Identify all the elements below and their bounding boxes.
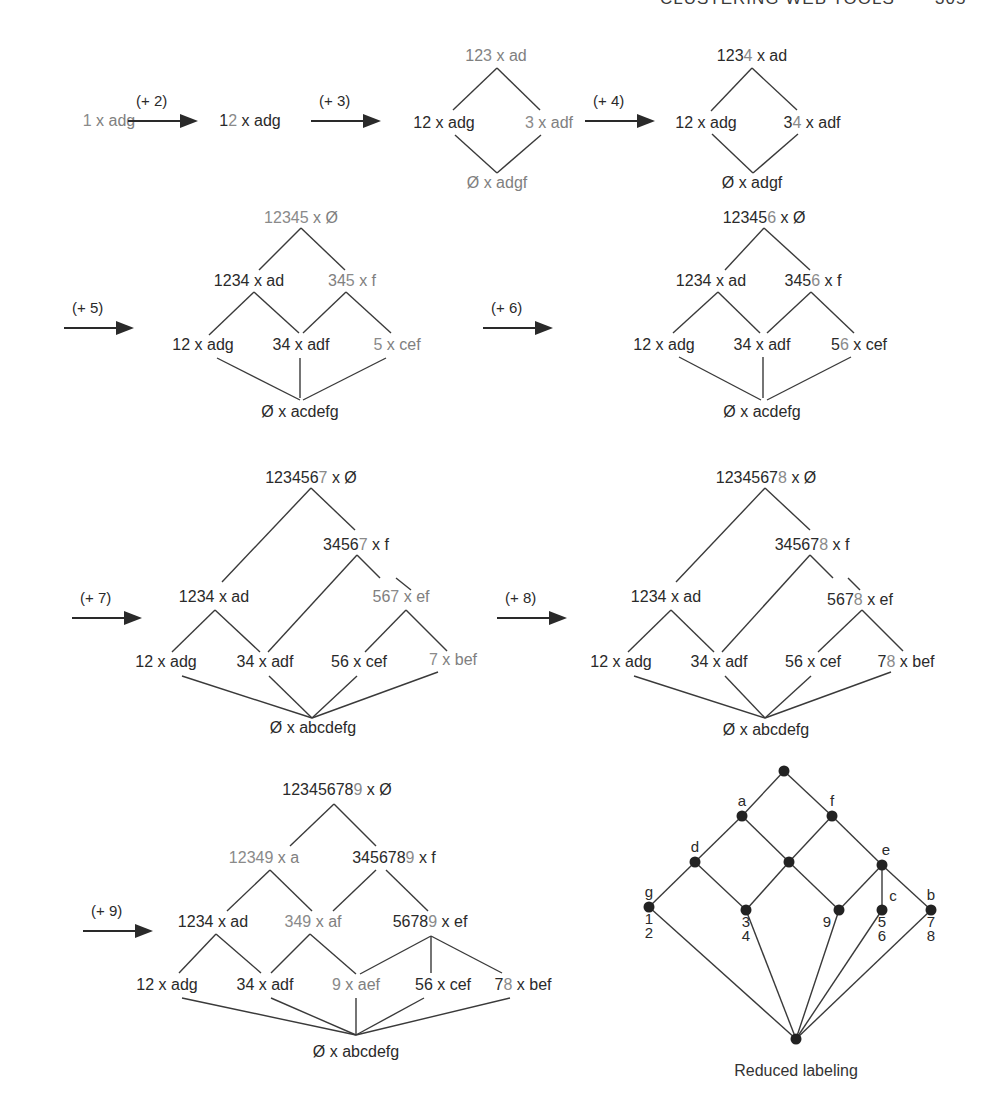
arrow-shaft [497,617,553,619]
intent-text: 34 x adf [734,336,791,353]
intent-text: Ø x acdefg [261,403,338,420]
intent-text: x f [414,849,435,866]
arrow-label: (+ 5) [72,299,103,316]
edge-line [765,488,810,530]
edge-line [746,862,789,910]
intent-text: 34 x adf [237,976,294,993]
edge-line [848,578,860,590]
edge-line [628,610,671,652]
concept-node: 123456 x Ø [723,209,806,227]
concept-node: 1234 x ad [214,272,284,290]
lattice-node-dot [877,860,888,871]
lattice-node-dot [690,857,701,868]
extent-new: 3 [525,114,534,131]
arrow-shaft [83,930,139,932]
concept-node: 123 x ad [465,47,526,65]
intent-text: x cef [849,336,887,353]
extent-new: 12345 [264,209,309,226]
concept-node: 567 x ef [373,588,430,606]
extent-new: 9 [353,781,362,798]
extent-new: 5 [373,336,382,353]
attribute-label: c [889,889,897,903]
concept-node: 12 x adg [413,114,474,132]
concept-node: 345678 x f [775,536,850,554]
attribute-label: f [830,794,834,808]
concept-node: 1234 x ad [717,47,787,65]
edge-line [357,555,380,578]
object-label: 9 [823,915,831,929]
intent-text: x bef [438,651,477,668]
extent-new: 8 [886,653,895,670]
extent-new: 5 [346,272,355,289]
intent-text: Ø x abcdefg [313,1043,399,1060]
step-arrow: (+ 3) [311,111,381,131]
extent-existing: 3 [784,114,793,131]
concept-node: Ø x abcdefg [723,721,809,739]
arrow-head-icon [116,321,134,335]
object-label: 78 [927,915,935,943]
edge-line [310,934,356,974]
intent-text: x adf [534,114,573,131]
concept-node: 56 x cef [785,653,841,671]
intent-text: x ef [399,588,429,605]
intent-text: x ef [437,913,467,930]
extent-existing: 5678 [393,913,429,930]
step-arrow: (+ 8) [497,608,567,628]
edge-line [215,610,260,652]
edge-line [209,292,254,335]
edge-line [839,865,882,910]
concept-node: 12 x adg [219,112,280,130]
lattice-edges [0,0,989,1119]
edge-line [455,135,497,173]
edge-line [789,862,839,910]
intent-text: 1234 x ad [179,588,249,605]
edge-line [259,228,301,270]
concept-node: 12 x adg [136,976,197,994]
extent-existing: 12345678 [282,781,353,798]
edge-line [271,934,310,973]
concept-node: Ø x abcdefg [270,719,356,737]
concept-node: 12349 x a [229,849,299,867]
concept-node: 12 x adg [633,336,694,354]
concept-node: 1234 x ad [676,272,746,290]
extent-existing: 123456 [265,469,318,486]
intent-text: x f [828,536,849,553]
edge-line [222,488,311,582]
intent-text: Ø x abcdefg [723,721,809,738]
edge-line [346,292,391,333]
concept-node: 12 x adg [135,653,196,671]
concept-node: 56 x cef [831,336,887,354]
intent-text: 34 x adf [237,653,294,670]
attribute-label: b [927,888,935,902]
intent-text: x af [311,913,341,930]
intent-text: 56 x cef [415,976,471,993]
concept-node: 1234 x ad [179,588,249,606]
extent-existing: 567 [827,591,854,608]
intent-text: x adf [801,114,840,131]
arrow-label: (+ 2) [136,92,167,109]
concept-node: Ø x acdefg [723,403,800,421]
reduced-labeling-caption: Reduced labeling [734,1062,858,1080]
edge-line [832,816,882,865]
concept-node: 1234 x ad [631,588,701,606]
extent-new: 2 [228,112,237,129]
extent-existing: 1 [219,112,228,129]
arrow-label: (+ 8) [505,589,536,606]
attribute-label: g [645,885,653,899]
edge-line [796,910,931,1039]
edge-line [303,292,346,333]
concept-node: 34 x adf [237,976,294,994]
attribute-label: a [738,794,746,808]
arrow-shaft [483,327,539,329]
concept-node: 5678 x ef [827,591,893,609]
edge-line [360,936,431,974]
intent-text: 12 x adg [633,336,694,353]
concept-node: 345 x f [328,272,376,290]
intent-text: Ø x adgf [722,174,782,191]
edge-line [216,934,261,973]
edge-line [356,998,510,1035]
extent-new: 7 [359,536,368,553]
edge-line [303,358,386,400]
edge-line [356,998,424,1035]
edge-line [497,135,541,173]
